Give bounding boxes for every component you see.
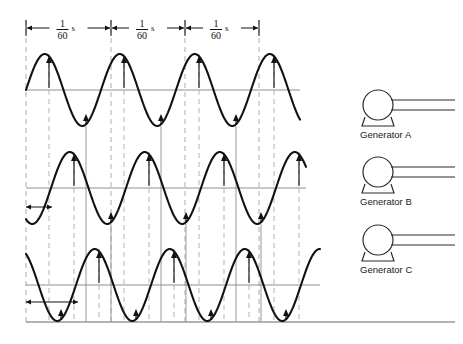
generator-symbol <box>362 90 455 126</box>
generator-circle-icon <box>363 225 393 255</box>
timing-unit: s <box>225 23 229 33</box>
timing-denominator: 60 <box>211 30 221 41</box>
timing-denominator: 60 <box>58 30 68 41</box>
generator-symbols <box>362 90 455 261</box>
timing-dimension-labels: 160s160s160s <box>57 18 230 41</box>
phase-shift-arrows <box>26 204 78 304</box>
generator-label: Generator B <box>360 196 412 207</box>
generator-base-icon <box>362 252 394 261</box>
timing-label: 160s <box>136 18 155 41</box>
phase-shift-marker <box>26 204 52 209</box>
waveform-diagram: 160s160s160s Generator AGenerator BGener… <box>0 0 463 344</box>
generator-base-icon <box>362 117 394 126</box>
generator-symbol <box>362 225 455 261</box>
timing-numerator: 1 <box>140 18 145 29</box>
timing-numerator: 1 <box>60 18 65 29</box>
dimension-arrowhead <box>27 25 32 30</box>
generator-circle-icon <box>363 157 393 187</box>
timing-unit: s <box>151 23 155 33</box>
timing-label: 160s <box>57 18 76 41</box>
generator-label: Generator C <box>360 264 412 275</box>
dimension-arrowhead <box>179 25 184 30</box>
dimension-arrowhead <box>186 25 191 30</box>
timing-denominator: 60 <box>137 30 147 41</box>
timing-label: 160s <box>210 18 229 41</box>
generator-circle-icon <box>363 90 393 120</box>
generator-label: Generator A <box>360 129 412 140</box>
generator-symbol <box>362 157 455 193</box>
timing-unit: s <box>72 23 76 33</box>
timing-numerator: 1 <box>214 18 219 29</box>
dimension-arrowhead <box>253 25 258 30</box>
dimension-arrowhead <box>105 25 110 30</box>
figure-canvas: 160s160s160s Generator AGenerator BGener… <box>0 0 463 344</box>
dimension-arrowhead <box>112 25 117 30</box>
generator-base-icon <box>362 184 394 193</box>
